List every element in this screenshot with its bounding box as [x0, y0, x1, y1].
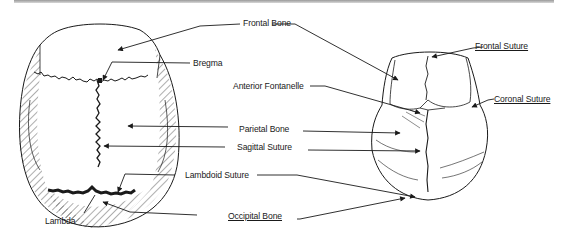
skull-diagram — [0, 0, 566, 239]
label-sagittal-suture: Sagittal Suture — [237, 142, 292, 152]
label-anterior-fontanelle: Anterior Fontanelle — [233, 81, 304, 91]
sagittal-suture-right-line — [426, 110, 428, 192]
coronal-suture-line — [34, 72, 148, 82]
frontal-suture-right-line — [425, 56, 428, 100]
label-coronal-suture: Coronal Suture — [494, 94, 550, 104]
label-parietal-bone: Parietal Bone — [239, 124, 289, 134]
frontal-bone-right-outline — [390, 58, 471, 109]
label-frontal-bone: Frontal Bone — [243, 18, 291, 28]
label-lambda: Lambda — [45, 216, 75, 226]
right-skull — [372, 52, 488, 200]
leader-lines — [84, 24, 494, 219]
sagittal-suture-line — [96, 80, 100, 167]
label-lambdoid-suture: Lambdoid Suture — [185, 170, 249, 180]
lambdoid-suture-line — [48, 187, 135, 194]
label-bregma: Bregma — [193, 58, 223, 68]
label-frontal-suture: Frontal Suture — [475, 41, 528, 51]
right-skull-outline — [372, 52, 488, 200]
label-occipital-bone: Occipital Bone — [228, 211, 282, 221]
